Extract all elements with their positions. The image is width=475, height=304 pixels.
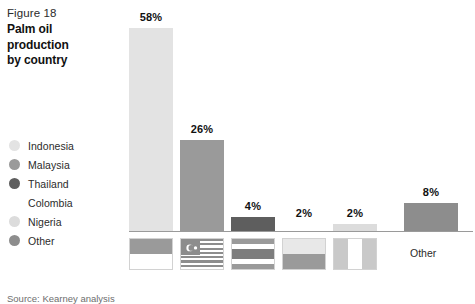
flag-stripe (232, 264, 274, 269)
flag-band-top (283, 239, 325, 254)
flag-band-bottom (283, 254, 325, 269)
bar-other[interactable] (404, 203, 458, 231)
bar-value-label: 4% (231, 200, 275, 212)
bar-malaysia[interactable] (180, 140, 224, 231)
bar-group-other[interactable]: 8% (404, 0, 458, 231)
page-title: Palm oil production by country (7, 22, 127, 69)
legend-item-indonesia[interactable]: Indonesia (9, 136, 129, 155)
x-tick-malaysia[interactable] (180, 238, 224, 270)
x-tick-indonesia[interactable] (129, 238, 173, 270)
bar-group-colombia[interactable]: 2% (282, 0, 326, 231)
legend-item-nigeria[interactable]: Nigeria (9, 212, 129, 231)
legend-item-label: Nigeria (28, 216, 62, 228)
chart-legend: IndonesiaMalaysiaThailandColombiaNigeria… (9, 136, 129, 250)
legend-item-label: Other (28, 235, 55, 247)
legend-item-label: Malaysia (28, 159, 70, 171)
legend-swatch-icon (9, 178, 20, 189)
flag-band-center (348, 239, 362, 269)
bar-group-thailand[interactable]: 4% (231, 0, 275, 231)
source-note: Source: Kearney analysis (7, 293, 115, 304)
crescent-star-icon (182, 240, 201, 256)
figure-number: Figure 18 (7, 6, 127, 21)
bar-nigeria[interactable] (333, 224, 377, 231)
flag-stripe (181, 267, 223, 269)
legend-swatch-icon (9, 216, 20, 227)
x-tick-thailand[interactable] (231, 238, 275, 270)
flag-band-top (130, 239, 172, 254)
flag-stripe (232, 249, 274, 259)
thailand-flag (231, 238, 275, 270)
bar-value-label: 58% (129, 11, 173, 23)
colombia-flag (282, 238, 326, 270)
page-title-line-3: by country (7, 53, 127, 69)
legend-swatch-icon (9, 235, 20, 246)
bar-value-label: 26% (180, 123, 224, 135)
figure-palm-oil-production: Figure 18 Palm oil production by country… (0, 0, 475, 304)
page-title-line-1: Palm oil (7, 22, 127, 38)
bar-indonesia[interactable] (129, 28, 173, 231)
legend-item-thailand[interactable]: Thailand (9, 174, 129, 193)
legend-item-malaysia[interactable]: Malaysia (9, 155, 129, 174)
x-tick-colombia[interactable] (282, 238, 326, 270)
bar-colombia[interactable] (282, 224, 326, 231)
legend-swatch-icon (9, 197, 20, 208)
legend-item-label: Thailand (28, 178, 69, 190)
nigeria-flag (333, 238, 377, 270)
flag-band-bottom (130, 254, 172, 269)
page-title-line-2: production (7, 38, 127, 54)
legend-item-label: Indonesia (28, 140, 74, 152)
malaysia-flag (180, 238, 224, 270)
bar-group-nigeria[interactable]: 2% (333, 0, 377, 231)
bar-thailand[interactable] (231, 217, 275, 231)
x-tick-nigeria[interactable] (333, 238, 377, 270)
title-block: Figure 18 Palm oil production by country (7, 6, 127, 69)
bar-value-label: 2% (333, 207, 377, 219)
plot-area: 58%26%4%2%2%8% (129, 0, 475, 232)
bar-group-indonesia[interactable]: 58% (129, 0, 173, 231)
bar-value-label: 8% (404, 186, 458, 198)
legend-item-other[interactable]: Other (9, 231, 129, 250)
x-axis-flag-labels: Other (129, 238, 475, 272)
axis-baseline (129, 231, 473, 232)
bar-group-malaysia[interactable]: 26% (180, 0, 224, 231)
legend-item-colombia[interactable]: Colombia (9, 193, 129, 212)
legend-swatch-icon (9, 140, 20, 151)
bar-value-label: 2% (282, 207, 326, 219)
flag-band-left (334, 239, 348, 269)
legend-item-label: Colombia (28, 197, 73, 209)
legend-swatch-icon (9, 159, 20, 170)
indonesia-flag (129, 238, 173, 270)
x-tick-other-label: Other (410, 247, 436, 259)
flag-band-right (362, 239, 376, 269)
